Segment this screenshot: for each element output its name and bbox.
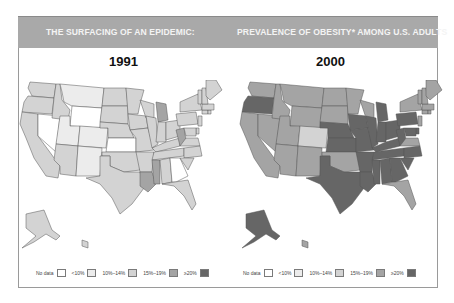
state-fl — [162, 180, 196, 210]
legend-label: 10%–14% — [102, 270, 125, 276]
legend-label: 15%–19% — [350, 270, 373, 276]
state-wi — [360, 100, 374, 118]
state-co — [298, 126, 328, 148]
legend-swatch — [200, 269, 209, 277]
state-pa — [176, 112, 198, 126]
state-mt — [280, 84, 324, 108]
state-ak — [22, 210, 60, 248]
legend-label: <10% — [72, 270, 85, 276]
state-nd — [102, 88, 128, 106]
state-hi — [82, 240, 88, 248]
legend-swatch — [264, 269, 273, 277]
state-mi — [156, 102, 168, 122]
legend-label: 15%–19% — [143, 270, 166, 276]
state-sd — [100, 106, 128, 124]
legend-swatch — [128, 269, 137, 277]
state-sd — [320, 106, 348, 124]
state-hi — [302, 240, 308, 248]
state-nm — [76, 146, 102, 176]
legend-swatch — [294, 269, 303, 277]
header-right-title: PREVALENCE OF OBESITY* AMONG U.S. ADULTS — [237, 27, 447, 37]
state-me — [206, 80, 222, 100]
state-wy — [70, 106, 102, 128]
figure-header: THE SURFACING OF AN EPIDEMIC: PREVALENCE… — [18, 16, 438, 48]
state-in — [376, 122, 386, 142]
state-vt — [418, 90, 422, 104]
state-nm — [296, 146, 322, 176]
state-ma — [202, 104, 214, 110]
state-co — [78, 126, 108, 148]
legend-label: ≥20% — [391, 270, 404, 276]
state-ct — [202, 110, 208, 114]
state-wa — [28, 82, 56, 98]
state-ks — [326, 138, 356, 152]
state-wy — [290, 106, 322, 128]
legend-label: ≥20% — [184, 270, 197, 276]
state-nj — [418, 116, 422, 126]
state-de — [416, 128, 419, 134]
state-md — [404, 128, 416, 136]
header-left-title: THE SURFACING OF AN EPIDEMIC: — [46, 27, 195, 37]
legend-2000: No data<10%10%–14%15%–19%≥20% — [243, 269, 422, 277]
state-ri — [428, 110, 431, 114]
legend-swatch — [335, 269, 344, 277]
year-2000-title: 2000 — [316, 54, 345, 69]
state-md — [184, 128, 196, 136]
state-or — [242, 96, 274, 114]
state-ia — [128, 114, 148, 130]
legend-label: 10%–14% — [309, 270, 332, 276]
state-ks — [106, 138, 136, 152]
map-1991 — [16, 80, 226, 260]
state-nj — [198, 116, 202, 126]
legend-swatch — [169, 269, 178, 277]
state-mi — [376, 102, 388, 122]
legend-swatch — [407, 269, 416, 277]
state-ri — [208, 110, 211, 114]
legend-swatch — [57, 269, 66, 277]
legend-label: No data — [243, 270, 261, 276]
state-ct — [422, 110, 428, 114]
state-ma — [422, 104, 434, 110]
state-nc — [404, 146, 422, 158]
state-ak — [242, 210, 280, 248]
legend-swatch — [87, 269, 96, 277]
legend-label: <10% — [279, 270, 292, 276]
state-ia — [348, 114, 368, 130]
state-de — [196, 128, 199, 134]
state-nc — [184, 146, 202, 158]
legend-1991: No data<10%10%–14%15%–19%≥20% — [36, 269, 215, 277]
state-or — [22, 96, 54, 114]
state-mt — [60, 84, 104, 108]
legend-swatch — [376, 269, 385, 277]
state-pa — [396, 112, 418, 126]
state-me — [426, 80, 442, 100]
state-vt — [198, 90, 202, 104]
state-in — [156, 122, 166, 142]
state-fl — [382, 180, 416, 210]
legend-label: No data — [36, 270, 54, 276]
map-2000 — [236, 80, 446, 260]
state-wa — [248, 82, 276, 98]
state-wi — [140, 100, 154, 118]
year-1991-title: 1991 — [109, 54, 138, 69]
state-nd — [322, 88, 348, 106]
